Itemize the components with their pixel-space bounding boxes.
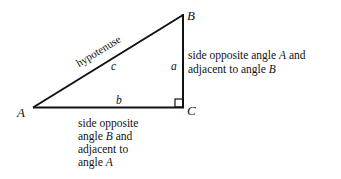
- vertex-label-a: A: [17, 105, 25, 121]
- vertex-label-b: B: [187, 8, 195, 24]
- side-label-a: a: [171, 60, 177, 72]
- side-b-annotation-line3: adjacent to: [78, 143, 138, 156]
- side-b-annotation-line4: angle A: [78, 156, 138, 169]
- side-a-annotation: side opposite angle A and adjacent to an…: [188, 49, 306, 76]
- variable-b: B: [269, 63, 276, 75]
- text-fragment: and: [286, 49, 305, 61]
- triangle-figure: [0, 0, 341, 179]
- text-fragment: and: [113, 130, 132, 142]
- text-fragment: angle: [78, 156, 106, 168]
- variable-b: B: [106, 130, 113, 142]
- text-fragment: angle: [78, 130, 106, 142]
- side-a-annotation-line2: adjacent to angle B: [188, 63, 306, 76]
- side-b-annotation-line2: angle B and: [78, 130, 138, 143]
- right-angle-marker: [175, 99, 183, 107]
- side-b-annotation: side opposite angle B and adjacent to an…: [78, 117, 138, 169]
- side-label-b: b: [116, 94, 122, 106]
- side-a-annotation-line1: side opposite angle A and: [188, 49, 306, 62]
- vertex-label-c: C: [187, 103, 196, 119]
- variable-a: A: [106, 156, 113, 168]
- text-fragment: adjacent to angle: [188, 63, 269, 75]
- side-label-c: c: [111, 60, 116, 72]
- variable-a: A: [279, 49, 286, 61]
- text-fragment: side opposite angle: [188, 49, 279, 61]
- hypotenuse-line: [33, 15, 183, 108]
- side-b-annotation-line1: side opposite: [78, 117, 138, 130]
